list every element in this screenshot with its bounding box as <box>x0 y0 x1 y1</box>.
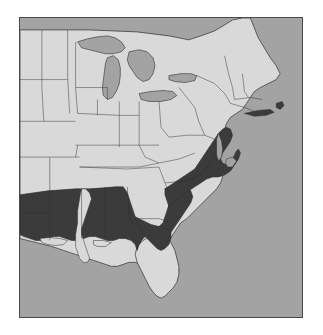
map-frame <box>19 17 303 318</box>
lake-ontario <box>169 74 197 83</box>
range-map-figure <box>0 0 323 335</box>
map-canvas <box>20 18 302 317</box>
